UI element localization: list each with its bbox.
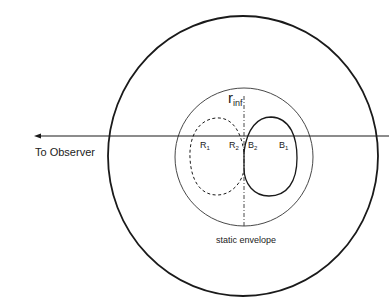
arrow-head-icon [34,134,41,139]
outer-circle [108,16,378,296]
point-subscript: 2 [236,145,239,151]
blueshift-loop-solid [244,117,297,196]
point-b1-label: B1 [279,140,288,151]
point-subscript: 2 [254,145,257,151]
observer-label: To Observer [35,146,95,158]
static-envelope-label: static envelope [216,235,276,245]
point-subscript: 1 [207,145,210,151]
r-inf-label: rinf [228,90,243,111]
point-b2-label: B2 [248,140,257,151]
point-r2-label: R2 [229,140,239,151]
redshift-loop-dashed [190,118,244,195]
point-r1-label: R1 [200,140,210,151]
point-subscript: 1 [285,145,288,151]
diagram-canvas: To Observer rinf R1 R2 B2 B1 static enve… [0,0,389,308]
r-inf-subscript: inf [233,98,243,108]
